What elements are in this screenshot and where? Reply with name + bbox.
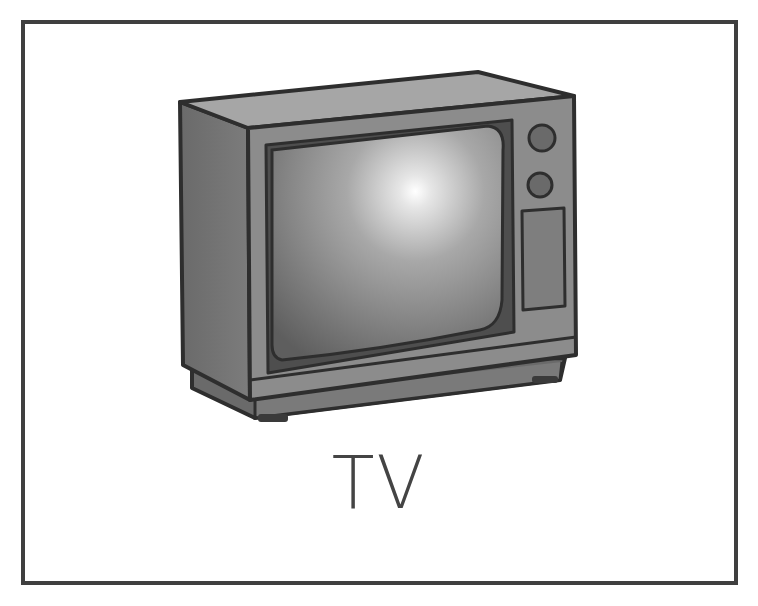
tv-control-panel [522,208,565,310]
tv-knob-bottom [528,173,552,197]
tv-side [180,102,250,400]
card-label: TV [0,446,758,520]
tv-knob-top [529,125,555,151]
tv-screen [272,126,503,360]
